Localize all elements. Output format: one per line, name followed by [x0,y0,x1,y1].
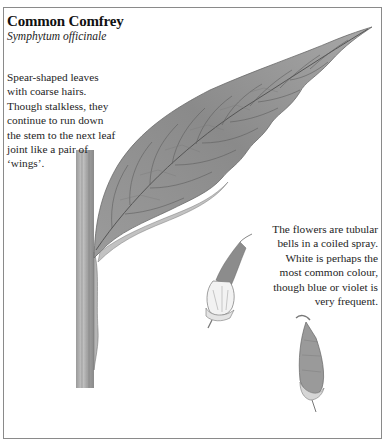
stem-illustration [76,150,98,388]
plant-title: Common Comfrey [7,13,123,30]
open-flower-illustration [206,234,252,328]
flower-description: The flowers are tubular bells in a coile… [262,222,378,308]
leaf-description: Spear-shaped leaves with coarse hairs. T… [7,70,119,171]
flower-bud-illustration [296,316,324,412]
latin-name: Symphytum officinale [7,30,106,42]
